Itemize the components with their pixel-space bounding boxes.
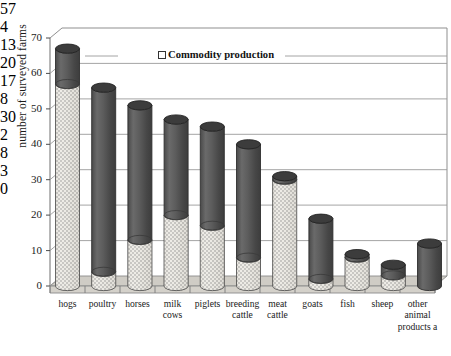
x-category-label-line: cows [149,309,196,320]
legend[interactable]: Commodity production [158,49,274,60]
x-category-label: otheranimalproducts a [394,298,441,332]
x-category-label-line: other [394,298,441,309]
x-category-label-line: cattle [254,309,301,320]
x-category-label-line: products a [394,321,441,332]
legend-label-commodity-production: Commodity production [168,49,274,60]
chart-container: number of surveyed farms [0,0,451,356]
legend-swatch-commodity-production [158,51,166,59]
x-category-label-line: animal [394,309,441,320]
